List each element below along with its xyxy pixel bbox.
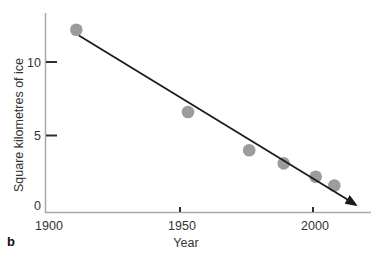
data-point — [243, 144, 256, 157]
panel-letter-label: b — [7, 234, 15, 249]
x-tick-label: 2000 — [301, 219, 329, 233]
y-tick-label: 0 — [34, 199, 41, 213]
y-tick-label: 10 — [27, 56, 41, 70]
y-tick-label: 5 — [34, 129, 41, 143]
ice-extent-scatter-figure: 0510190019502000 Square kilometres of ic… — [0, 0, 386, 258]
y-axis-label: Square kilometres of ice — [12, 58, 26, 192]
x-tick-label: 1900 — [35, 219, 63, 233]
x-axis-label: Year — [173, 236, 198, 250]
data-point — [70, 23, 83, 36]
x-tick-label: 1950 — [168, 219, 196, 233]
data-point — [182, 106, 195, 119]
trend-line — [79, 36, 356, 205]
